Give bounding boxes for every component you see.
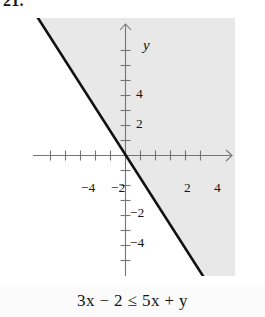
x-tick-label-pos4: 4 — [214, 181, 221, 195]
inequality-caption: 3x − 2 ≤ 5x + y — [0, 285, 265, 317]
y-tick-label-neg4: −4 — [130, 236, 144, 250]
y-axis-label: y — [143, 38, 150, 53]
graph-figure: y x −4 −2 2 4 4 2 −2 −4 — [0, 0, 265, 285]
y-tick-label-pos4: 4 — [136, 87, 143, 101]
coordinate-plane: y x −4 −2 2 4 4 2 −2 −4 — [33, 18, 235, 276]
y-tick-label-neg2: −2 — [130, 206, 144, 220]
x-tick-label-neg2: −2 — [111, 181, 125, 195]
x-tick-label-pos2: 2 — [184, 181, 191, 195]
y-tick-label-pos2: 2 — [136, 117, 143, 131]
x-tick-label-neg4: −4 — [81, 181, 95, 195]
inequality-expression: 3x − 2 ≤ 5x + y — [77, 291, 188, 311]
